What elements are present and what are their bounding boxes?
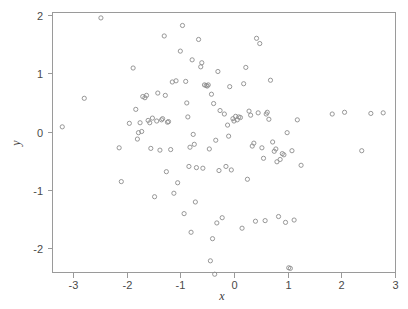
data-point xyxy=(192,142,196,146)
y-tick-label: 0 xyxy=(37,127,43,139)
y-tick-label: 2 xyxy=(37,10,43,22)
data-point xyxy=(196,37,200,41)
data-point xyxy=(360,149,364,153)
x-tick-label: 2 xyxy=(338,279,344,291)
data-point xyxy=(240,226,244,230)
data-point xyxy=(260,146,264,150)
data-point xyxy=(162,34,166,38)
data-point xyxy=(209,92,213,96)
data-point xyxy=(193,200,197,204)
data-point xyxy=(201,166,205,170)
data-point xyxy=(158,148,162,152)
x-tick-label: 3 xyxy=(392,279,398,291)
data-point xyxy=(299,163,303,167)
data-point xyxy=(222,112,226,116)
data-point xyxy=(164,170,168,174)
data-point xyxy=(172,191,176,195)
data-point xyxy=(212,101,216,105)
data-point xyxy=(199,65,203,69)
data-point xyxy=(261,156,265,160)
data-point xyxy=(191,132,195,136)
y-axis-ticks: 210-1-2 xyxy=(33,10,52,255)
x-axis-ticks: -3-2-10123 xyxy=(69,273,399,292)
data-point xyxy=(189,230,193,234)
data-point xyxy=(184,79,188,83)
data-point xyxy=(242,82,246,86)
data-point xyxy=(82,96,86,100)
data-point xyxy=(245,177,249,181)
data-point xyxy=(256,111,260,115)
data-point xyxy=(381,111,385,115)
data-point xyxy=(216,69,220,73)
data-point xyxy=(271,140,275,144)
data-point xyxy=(134,107,138,111)
data-point xyxy=(200,61,204,65)
data-point xyxy=(369,111,373,115)
data-point xyxy=(156,91,160,95)
data-point xyxy=(225,123,229,127)
data-point xyxy=(285,131,289,135)
data-point xyxy=(169,147,173,151)
data-point xyxy=(283,220,287,224)
data-point xyxy=(180,23,184,27)
scatter-plot-figure: -3-2-10123 210-1-2 x y xyxy=(0,0,408,309)
y-tick-label: 1 xyxy=(37,68,43,80)
data-point xyxy=(131,66,135,70)
x-tick-label: 0 xyxy=(231,279,237,291)
data-point xyxy=(119,179,123,183)
x-tick-label: -1 xyxy=(176,279,186,291)
data-point xyxy=(267,117,271,121)
data-point xyxy=(185,101,189,105)
data-point xyxy=(276,214,280,218)
data-point xyxy=(138,121,142,125)
y-tick-label: -2 xyxy=(33,243,43,255)
data-point xyxy=(224,164,228,168)
data-point xyxy=(186,115,190,119)
y-axis-title: y xyxy=(9,140,23,147)
data-point xyxy=(229,168,233,172)
data-point xyxy=(247,109,251,113)
y-tick-label: -1 xyxy=(33,185,43,197)
data-point xyxy=(292,218,296,222)
data-point xyxy=(220,216,224,220)
data-point xyxy=(127,121,131,125)
data-point xyxy=(190,58,194,62)
data-point xyxy=(135,137,139,141)
data-point xyxy=(99,16,103,20)
data-point xyxy=(214,138,218,142)
data-point xyxy=(215,221,219,225)
data-point xyxy=(161,117,165,121)
data-point xyxy=(150,116,154,120)
data-point xyxy=(227,134,231,138)
plot-frame xyxy=(53,13,396,273)
data-point xyxy=(163,93,167,97)
data-point xyxy=(182,212,186,216)
data-point xyxy=(290,149,294,153)
x-tick-label: -3 xyxy=(69,279,79,291)
data-point xyxy=(268,78,272,82)
data-point xyxy=(208,259,212,263)
data-point xyxy=(187,164,191,168)
data-point xyxy=(207,147,211,151)
data-point xyxy=(194,166,198,170)
data-point xyxy=(217,168,221,172)
data-point xyxy=(176,181,180,185)
data-point xyxy=(152,195,156,199)
data-point xyxy=(330,112,334,116)
data-point xyxy=(210,237,214,241)
data-point xyxy=(254,36,258,40)
data-point xyxy=(295,118,299,122)
data-point xyxy=(149,146,153,150)
data-point xyxy=(178,49,182,53)
data-point xyxy=(249,113,253,117)
data-point xyxy=(263,219,267,223)
data-point xyxy=(278,157,282,161)
data-point xyxy=(258,41,262,45)
data-point xyxy=(218,108,222,112)
data-point xyxy=(60,125,64,129)
data-point xyxy=(228,85,232,89)
plot-canvas: -3-2-10123 210-1-2 x y xyxy=(0,0,408,309)
x-axis-title: x xyxy=(218,289,225,303)
data-point xyxy=(253,219,257,223)
data-point xyxy=(117,146,121,150)
